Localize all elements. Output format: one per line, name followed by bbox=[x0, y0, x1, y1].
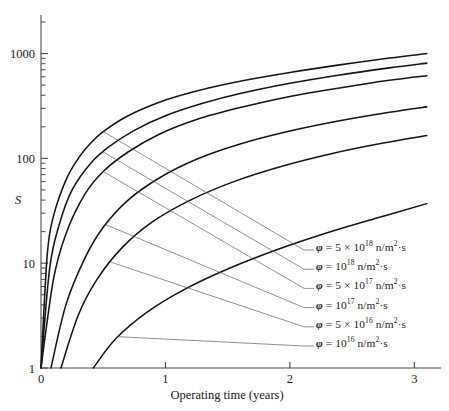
x-tick-label: 0 bbox=[38, 372, 44, 386]
x-tick-label: 3 bbox=[411, 372, 417, 386]
semilog-plot: 11010010000123Operating time (years)S bbox=[0, 0, 449, 411]
legend-entry-4: φ = 5 × 1016 n/m2·s bbox=[316, 318, 406, 330]
legend-entry-2: φ = 5 × 1017 n/m2·s bbox=[316, 279, 406, 291]
legend-leader-1 bbox=[103, 152, 314, 269]
legend-entry-5: φ = 1016 n/m2·s bbox=[316, 337, 388, 349]
legend-leader-2 bbox=[103, 172, 314, 289]
x-tick-label: 1 bbox=[162, 372, 168, 386]
x-tick-label: 2 bbox=[287, 372, 293, 386]
legend-entry-0: φ = 5 × 1018 n/m2·s bbox=[316, 241, 406, 253]
legend-leader-5 bbox=[118, 337, 314, 346]
chart-figure: 11010010000123Operating time (years)S φ … bbox=[0, 0, 449, 411]
y-tick-label: 1 bbox=[29, 362, 35, 376]
x-axis-title: Operating time (years) bbox=[170, 388, 283, 402]
legend-entry-1: φ = 1018 n/m2·s bbox=[316, 260, 388, 272]
y-axis-title: S bbox=[15, 192, 22, 207]
y-tick-label: 10 bbox=[23, 257, 36, 271]
legend-entry-3: φ = 1017 n/m2·s bbox=[316, 299, 388, 311]
y-tick-label: 1000 bbox=[10, 47, 35, 61]
y-tick-label: 100 bbox=[16, 152, 35, 166]
legend-leader-0 bbox=[103, 132, 314, 250]
